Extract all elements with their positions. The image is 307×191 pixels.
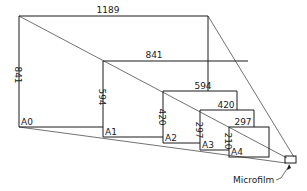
top-right-projection-line [208, 16, 294, 157]
a3-width-label: 420 [217, 100, 234, 110]
a2-width-label: 594 [194, 81, 211, 91]
a1-height-label: 594 [97, 88, 107, 105]
a3-name-label: A3 [202, 140, 214, 150]
a1-name-label: A1 [105, 127, 117, 137]
a0-width-label: 1189 [97, 5, 120, 15]
a1-width-label: 841 [145, 50, 162, 60]
microfilm-box [285, 156, 296, 163]
a0-height-label: 841 [13, 66, 23, 83]
a2-name-label: A2 [165, 133, 177, 143]
microfilm-leader-line [276, 166, 289, 180]
a4-name-label: A4 [231, 147, 243, 157]
a3-height-label: 297 [194, 121, 204, 138]
a0-name-label: A0 [21, 117, 33, 127]
a4-width-label: 297 [234, 117, 251, 127]
microfilm-label: Microfilm [233, 175, 274, 185]
sheet-a0 [19, 16, 208, 127]
paper-sizes-diagram: 1189 841 594 420 297 841 594 420 297 210… [0, 0, 307, 191]
a2-height-label: 420 [157, 108, 167, 125]
microfilm-arrow-icon [287, 164, 291, 170]
bottom-projection-line [19, 127, 286, 163]
